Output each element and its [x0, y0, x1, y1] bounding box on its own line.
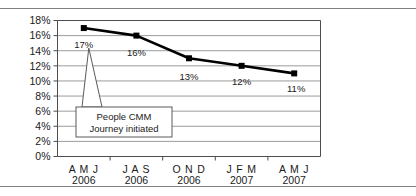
data-point-label: 17%	[74, 39, 94, 50]
y-tick-label: 12%	[29, 60, 50, 72]
data-point-label: 13%	[179, 71, 199, 82]
data-point-label: 11%	[287, 83, 306, 94]
data-point-marker[interactable]	[81, 25, 87, 31]
y-tick-label: 0%	[35, 150, 50, 162]
chart-plot-wrapper: 0%2%4%6%8%10%12%14%16%18% A M J2006J A S…	[0, 0, 416, 196]
data-labels-group: 17%16%13%12%11%	[74, 39, 306, 94]
annotation-callout-group: People CMMJourney initiated	[76, 48, 172, 137]
x-tick-label-year: 2007	[283, 174, 307, 186]
x-tick-labels-group: A M J2006J A S2006O N D2006J F M2007A M …	[69, 163, 310, 186]
x-axis-group	[110, 157, 268, 161]
data-point-label: 16%	[127, 47, 147, 58]
y-tick-label: 16%	[29, 29, 50, 41]
data-point-label: 12%	[232, 76, 252, 87]
x-tick-label-year: 2006	[177, 174, 201, 186]
y-tick-label: 2%	[35, 135, 50, 147]
callout-text-line-2: Journey initiated	[89, 123, 158, 134]
callout-text-line-1: People CMM	[97, 111, 152, 122]
data-point-marker[interactable]	[186, 55, 192, 61]
y-tick-label: 14%	[29, 45, 50, 57]
x-tick-label-year: 2006	[125, 174, 149, 186]
x-tick-label-year: 2006	[72, 174, 96, 186]
y-tick-label: 10%	[29, 75, 50, 87]
data-point-marker[interactable]	[133, 33, 139, 39]
x-tick-label-year: 2007	[230, 174, 254, 186]
y-tick-label: 18%	[29, 14, 50, 26]
y-tick-label: 4%	[35, 120, 50, 132]
y-axis-group: 0%2%4%6%8%10%12%14%16%18%	[29, 14, 57, 162]
figure-container: 0%2%4%6%8%10%12%14%16%18% A M J2006J A S…	[0, 0, 416, 196]
data-point-marker[interactable]	[291, 70, 297, 76]
data-point-marker[interactable]	[239, 63, 245, 69]
line-chart: 0%2%4%6%8%10%12%14%16%18% A M J2006J A S…	[0, 0, 416, 196]
y-tick-label: 6%	[35, 105, 50, 117]
y-tick-label: 8%	[35, 90, 50, 102]
callout-pointer	[82, 48, 102, 107]
